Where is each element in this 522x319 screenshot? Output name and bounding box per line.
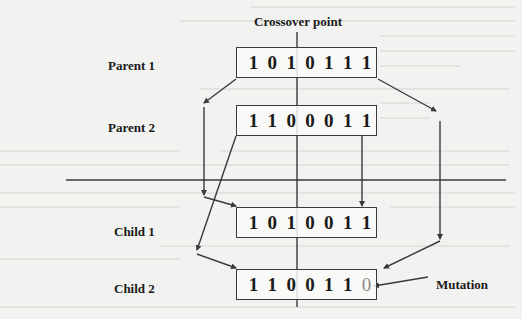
gene-bit: 1 (338, 274, 357, 296)
gene-bit: 1 (244, 212, 263, 234)
gene-bit: 1 (263, 110, 282, 132)
gene-bit: 0 (301, 52, 320, 74)
gene-bit: 1 (244, 110, 263, 132)
gene-bit: 1 (244, 274, 263, 296)
parent-1-label: Parent 1 (108, 58, 155, 74)
mutated-gene-bit: 0 (357, 274, 376, 296)
child-2-label: Child 2 (114, 281, 155, 297)
gene-bit: 1 (282, 212, 301, 234)
gene-bit: 1 (319, 52, 338, 74)
gene-bit: 1 (338, 212, 357, 234)
gene-bit: 1 (244, 52, 263, 74)
gene-bit: 0 (301, 110, 320, 132)
gene-bit: 1 (338, 52, 357, 74)
mutation-label: Mutation (436, 277, 488, 293)
child-2-chromosome: 1 1 0 0 1 1 0 (236, 269, 377, 300)
gene-bit: 1 (282, 52, 301, 74)
gene-bit: 0 (301, 274, 320, 296)
gene-bit: 1 (357, 52, 376, 74)
child-1-chromosome: 1 0 1 0 0 1 1 (236, 207, 377, 238)
gene-bit: 1 (263, 274, 282, 296)
gene-bit: 0 (319, 110, 338, 132)
gene-bit: 0 (282, 110, 301, 132)
crossover-point-label: Crossover point (254, 14, 342, 30)
parent-2-chromosome: 1 1 0 0 0 1 1 (236, 105, 377, 136)
gene-bit: 1 (319, 274, 338, 296)
gene-bit: 0 (319, 212, 338, 234)
gene-bit: 0 (263, 52, 282, 74)
gene-bit: 0 (263, 212, 282, 234)
child-1-label: Child 1 (114, 224, 155, 240)
gene-bit: 0 (301, 212, 320, 234)
gene-bit: 1 (357, 110, 376, 132)
gene-bit: 0 (282, 274, 301, 296)
gene-bit: 1 (338, 110, 357, 132)
gene-bit: 1 (357, 212, 376, 234)
parent-2-label: Parent 2 (108, 120, 155, 136)
parent-1-chromosome: 1 0 1 0 1 1 1 (236, 47, 377, 78)
